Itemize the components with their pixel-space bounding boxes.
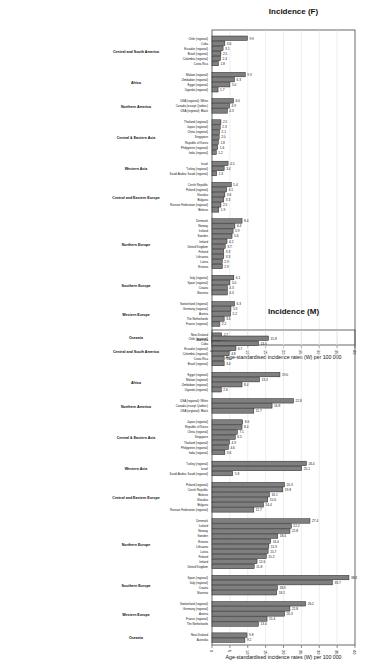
bar-value-label: 6.5 — [237, 435, 242, 439]
category-label: Bulgaria — [197, 198, 208, 202]
bar-value-label: 3.6 — [227, 193, 232, 197]
bar-value-label: 1.6 — [220, 146, 225, 150]
category-label: Russian Federation (regional) — [170, 203, 208, 207]
bar — [212, 617, 267, 621]
bar — [212, 193, 225, 197]
bar-value-label: 5.9 — [235, 229, 240, 233]
bar — [212, 575, 349, 579]
bar — [212, 377, 260, 381]
group-label: Africa — [131, 81, 142, 85]
bar — [212, 461, 306, 465]
category-label: Norway — [198, 224, 208, 228]
category-label: Finland — [199, 555, 209, 559]
bar-value-label: 18.4 — [280, 534, 286, 538]
category-label: Czech Republic — [188, 488, 209, 492]
category-label: Canada (except Quebec) — [176, 404, 208, 408]
bar — [212, 77, 235, 81]
bar — [212, 524, 291, 528]
category-label: Brazil (regional) — [188, 52, 208, 56]
group-label: Central and Eastern Europe — [112, 496, 159, 500]
category-label: The Netherlands — [187, 622, 209, 626]
bar — [212, 46, 223, 50]
category-label: Lithuania — [196, 545, 208, 549]
category-label: Norway — [198, 529, 208, 533]
bar-value-label: 1.3 — [219, 172, 224, 176]
category-label: Australia — [197, 638, 209, 642]
bar-value-label: 15.6 — [270, 498, 276, 502]
bar — [212, 534, 278, 538]
bar-value-label: 5.0 — [232, 83, 237, 87]
bar — [212, 161, 228, 165]
bar-value-label: 26.2 — [308, 602, 314, 606]
bar-value-label: 15.4 — [269, 617, 275, 621]
bar — [212, 234, 232, 238]
bar-value-label: 16.8 — [274, 404, 280, 408]
group-label: Northern America — [121, 105, 152, 109]
category-label: Malawi (regional) — [186, 378, 208, 382]
bar — [212, 399, 294, 403]
bar-value-label: 13.3 — [262, 378, 268, 382]
category-label: Philippines (regional) — [181, 446, 208, 450]
category-label: Egypt (regional) — [188, 83, 208, 87]
category-label: Thailand (regional) — [184, 441, 208, 445]
category-label: Czech Republic — [188, 183, 209, 187]
bar — [212, 487, 283, 491]
bar-value-label: 21.8 — [292, 607, 298, 611]
bar-value-label: 26.4 — [308, 462, 314, 466]
bar-value-label: 13.0 — [260, 622, 266, 626]
category-label: Belarus — [198, 493, 208, 497]
bar — [212, 519, 310, 523]
category-label: China (regional) — [187, 430, 208, 434]
bar — [212, 585, 277, 589]
bar-value-label: 12.6 — [259, 560, 265, 564]
category-label: Saudi Arabia: Saudi (regional) — [170, 472, 208, 476]
category-label: Singapore — [195, 435, 209, 439]
category-label: Poland (regional) — [186, 483, 208, 487]
bar-value-label: 4.6 — [230, 446, 235, 450]
category-label: Latvia — [200, 260, 208, 264]
bar — [212, 145, 218, 149]
bar-value-label: 3.6 — [227, 42, 232, 46]
category-label: Turkey (regional) — [186, 462, 208, 466]
bar-value-label: 15.7 — [270, 550, 276, 554]
bar-value-label: 21.8 — [292, 529, 298, 533]
bar — [212, 187, 227, 191]
bar — [212, 466, 302, 470]
group-label: Central and South America — [113, 50, 160, 54]
bar-value-label: 9.3 — [247, 73, 252, 77]
category-label: Israel — [201, 467, 208, 471]
category-label: Japan (regional) — [187, 125, 208, 129]
category-label: Turkey (regional) — [186, 167, 208, 171]
bar-value-label: 8.4 — [244, 383, 249, 387]
category-label: Israel — [201, 162, 208, 166]
bar-value-label: 3.6 — [227, 451, 232, 455]
bar — [212, 41, 225, 45]
group-label: Northern Europe — [122, 243, 151, 247]
bar — [212, 549, 268, 553]
bar-value-label: 4.9 — [232, 441, 237, 445]
bar — [212, 409, 254, 413]
bar-value-label: 4.3 — [229, 109, 234, 113]
category-label: USA (regional): Black — [181, 109, 209, 113]
category-label: Spain (regional) — [188, 281, 208, 285]
category-label: Saudi Arabia: Saudi (regional) — [170, 172, 208, 176]
bar-value-label: 3.7 — [227, 245, 232, 249]
category-label: Sweden — [198, 234, 209, 238]
bar — [212, 622, 258, 626]
category-label: Italy (regional) — [190, 581, 208, 585]
group-label: Oceania — [129, 636, 144, 640]
bar — [212, 602, 306, 606]
bar — [212, 361, 224, 365]
bar — [212, 388, 221, 392]
bar — [212, 612, 285, 616]
bar-value-label: 9.9 — [249, 37, 254, 41]
bar — [212, 82, 230, 86]
category-label: Philippines (regional) — [181, 146, 208, 150]
bar-value-label: 15.2 — [268, 555, 274, 559]
bar-value-label: 2.9 — [224, 260, 229, 264]
category-label: Iceland — [199, 524, 209, 528]
bar — [212, 346, 236, 350]
bar — [212, 471, 233, 475]
category-label: China (regional) — [187, 130, 208, 134]
category-label: New Zealand — [191, 633, 208, 637]
